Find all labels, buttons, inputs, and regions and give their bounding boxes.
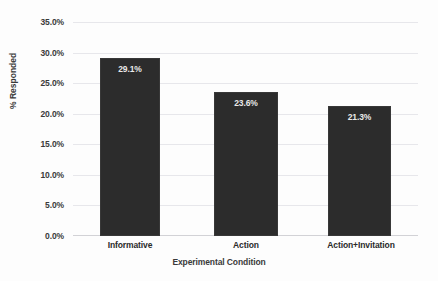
- x-axis-title: Experimental Condition: [0, 257, 438, 267]
- x-axis-tick-label: Action+Invitation: [327, 240, 394, 250]
- y-axis-tick-label: 15.0%: [40, 139, 64, 149]
- bar-chart: % Responded 35.0% 30.0% 25.0% 20.0% 15.0…: [0, 0, 438, 281]
- y-axis-tick-label: 25.0%: [40, 78, 64, 88]
- y-axis-tick-label: 20.0%: [40, 109, 64, 119]
- gridline: [73, 22, 418, 23]
- y-axis-tick-label: 5.0%: [45, 200, 64, 210]
- y-axis-tick-label: 10.0%: [40, 170, 64, 180]
- bar-value-label: 21.3%: [329, 112, 390, 122]
- gridline: [73, 53, 418, 54]
- y-axis: 35.0% 30.0% 25.0% 20.0% 15.0% 10.0% 5.0%…: [0, 22, 70, 236]
- bar-value-label: 23.6%: [215, 98, 277, 108]
- bar-action-invitation[interactable]: 21.3%: [328, 106, 391, 236]
- bar-value-label: 29.1%: [101, 64, 159, 74]
- x-axis: Informative Action Action+Invitation: [73, 240, 418, 254]
- x-axis-tick-label: Informative: [108, 240, 153, 250]
- bar-action[interactable]: 23.6%: [214, 92, 278, 236]
- y-axis-tick-label: 0.0%: [45, 231, 64, 241]
- y-axis-tick-label: 30.0%: [40, 48, 64, 58]
- bar-informative[interactable]: 29.1%: [100, 58, 160, 236]
- plot-area: 29.1% 23.6% 21.3%: [73, 22, 418, 236]
- y-axis-tick-label: 35.0%: [40, 17, 64, 27]
- x-axis-tick-label: Action: [233, 240, 259, 250]
